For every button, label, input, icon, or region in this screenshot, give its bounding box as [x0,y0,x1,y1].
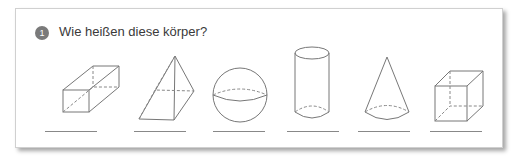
cuboid-icon [63,66,123,122]
cube-icon [434,70,484,122]
exercise-question: Wie heißen diese körper? [59,24,207,39]
cylinder-icon [294,46,332,121]
answer-line-2[interactable] [134,131,186,132]
answer-line-6[interactable] [430,131,482,132]
answer-line-1[interactable] [45,131,97,132]
cone-icon [364,57,410,123]
answer-line-4[interactable] [287,131,339,132]
exercise-number-badge: 1 [35,26,49,40]
answer-line-3[interactable] [213,131,265,132]
sphere-icon [212,67,268,123]
pyramid-icon [139,56,194,122]
answer-line-5[interactable] [358,131,410,132]
